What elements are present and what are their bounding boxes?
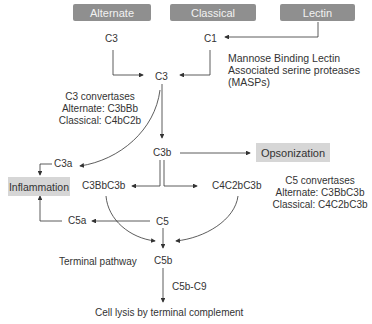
outcome-cell-lysis: Cell lysis by terminal complement bbox=[95, 307, 243, 319]
c5-convertases-classical: Classical: C4C2bC3b bbox=[270, 199, 370, 211]
node-c4c2bc3b: C4C2bC3b bbox=[212, 180, 261, 192]
node-c1: C1 bbox=[204, 33, 217, 45]
node-c5: C5 bbox=[156, 216, 169, 228]
node-c3bbc3b: C3BbC3b bbox=[82, 180, 125, 192]
masp-label-3: (MASPs) bbox=[228, 76, 270, 88]
masp-label-1: Mannose Binding Lectin bbox=[228, 52, 340, 64]
node-c3-alternate: C3 bbox=[105, 33, 118, 45]
c5-convertases-alternate: Alternate: C3BbC3b bbox=[270, 187, 370, 199]
node-c5b: C5b bbox=[154, 255, 172, 267]
c3-convertases-alternate: Alternate: C3bBb bbox=[55, 103, 145, 115]
outcome-opsonization: Opsonization bbox=[256, 143, 330, 162]
node-c3a: C3a bbox=[54, 158, 72, 170]
pathway-lectin: Lectin bbox=[280, 4, 355, 21]
c3-convertases-title: C3 convertases bbox=[55, 91, 145, 103]
c5-convertases-title: C5 convertases bbox=[270, 175, 370, 187]
pathway-classical: Classical bbox=[170, 4, 256, 21]
masp-label-2: Associated serine proteases bbox=[228, 64, 360, 76]
node-c5a: C5a bbox=[68, 215, 86, 227]
node-c5b-c9: C5b-C9 bbox=[172, 281, 206, 293]
node-c3b: C3b bbox=[153, 147, 171, 159]
outcome-inflammation: Inflammation bbox=[8, 177, 70, 196]
node-c3: C3 bbox=[155, 71, 168, 83]
pathway-alternate: Alternate bbox=[73, 4, 151, 21]
c3-convertases-classical: Classical: C4bC2b bbox=[55, 115, 145, 127]
terminal-pathway-label: Terminal pathway bbox=[59, 256, 137, 268]
